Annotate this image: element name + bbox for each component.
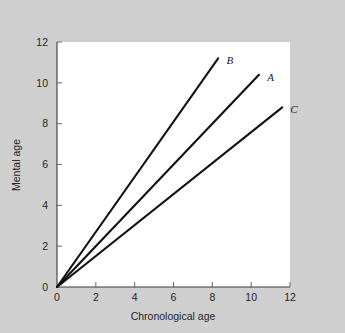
series-label-c: C (290, 103, 298, 115)
y-axis-title: Mental age (10, 139, 22, 191)
y-tick-label: 8 (42, 117, 48, 129)
y-tick-label: 0 (42, 281, 48, 293)
x-tick-label: 2 (93, 291, 99, 303)
y-tick-label: 12 (36, 36, 48, 48)
chart-figure: BAC 024681012 024681012 Chronological ag… (0, 0, 345, 333)
x-axis-title: Chronological age (131, 310, 216, 322)
x-tick-label: 0 (54, 291, 60, 303)
mental-age-vs-chronological-age-chart: BAC 024681012 024681012 Chronological ag… (0, 0, 345, 333)
y-tick-label: 4 (42, 199, 48, 211)
y-tick-label: 10 (36, 77, 48, 89)
x-tick-label: 10 (245, 291, 257, 303)
series-label-a: A (266, 71, 274, 83)
x-tick-label: 4 (132, 291, 138, 303)
x-tick-label: 12 (284, 291, 296, 303)
y-tick-label: 2 (42, 240, 48, 252)
x-tick-label: 6 (171, 291, 177, 303)
y-tick-label: 6 (42, 158, 48, 170)
x-tick-label: 8 (209, 291, 215, 303)
series-label-b: B (226, 54, 233, 66)
